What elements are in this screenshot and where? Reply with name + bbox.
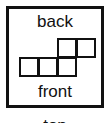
grid-cell <box>76 38 96 58</box>
grid-cell <box>57 38 77 58</box>
grid-cell <box>57 57 77 77</box>
view-caption: top <box>0 117 110 123</box>
grid-cell <box>38 57 58 77</box>
grid-cell <box>19 57 39 77</box>
back-label: back <box>0 13 110 30</box>
front-label: front <box>0 83 110 100</box>
